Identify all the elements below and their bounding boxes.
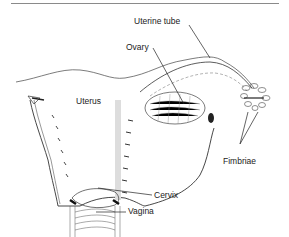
fimbriae-shape — [241, 84, 271, 111]
label-fimbriae: Fimbriae — [223, 157, 256, 166]
cervix-shape — [72, 189, 119, 208]
uterine-tube-outline — [140, 62, 252, 92]
label-uterus: Uterus — [76, 97, 101, 106]
label-ovary: Ovary — [126, 43, 149, 52]
reproductive-anatomy-illustration — [0, 0, 289, 237]
uterus-shading-left — [52, 115, 68, 177]
uterus-shading-right — [122, 120, 133, 193]
broad-ligament-outline — [16, 57, 254, 88]
label-cervix: Cervix — [154, 191, 178, 200]
label-vagina: Vagina — [128, 207, 154, 216]
label-uterine-tube: Uterine tube — [134, 17, 180, 26]
vagina-shape — [70, 206, 120, 237]
